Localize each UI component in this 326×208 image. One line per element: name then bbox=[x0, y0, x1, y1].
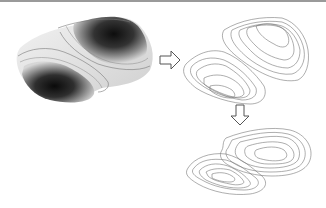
arrow-down-icon bbox=[231, 105, 249, 125]
contours-2d bbox=[186, 128, 311, 194]
contours-3d bbox=[184, 18, 309, 105]
shaded-surface bbox=[17, 17, 153, 103]
arrow-right-icon bbox=[160, 51, 180, 69]
diagram-canvas bbox=[0, 0, 326, 208]
